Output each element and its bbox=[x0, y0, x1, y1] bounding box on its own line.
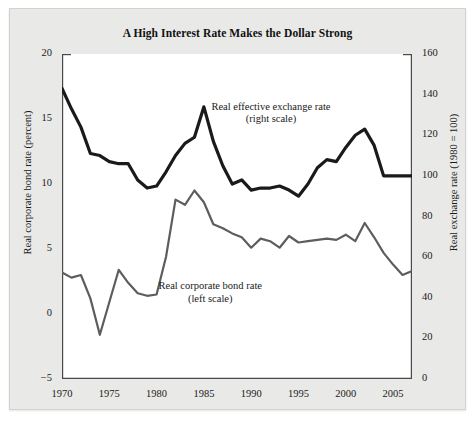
annotation-exchange-line1: Real effective exchange rate bbox=[211, 101, 330, 114]
x-tick-label: 1985 bbox=[179, 388, 229, 399]
y-tick-label-left: 0 bbox=[12, 307, 52, 318]
x-tick-label: 2005 bbox=[368, 388, 418, 399]
y-tick-label-left: 20 bbox=[12, 47, 52, 58]
y-tick-label-right: 60 bbox=[422, 250, 462, 261]
y-tick-label-right: 20 bbox=[422, 331, 462, 342]
y-tick-label-right: 120 bbox=[422, 128, 462, 139]
x-tick-label: 2000 bbox=[321, 388, 371, 399]
y-tick-label-right: 80 bbox=[422, 210, 462, 221]
x-tick-label: 1990 bbox=[226, 388, 276, 399]
y-tick-label-right: 140 bbox=[422, 88, 462, 99]
figure-root: A High Interest Rate Makes the Dollar St… bbox=[0, 0, 473, 430]
x-tick-label: 1970 bbox=[37, 388, 87, 399]
annotation-bond-line2: (left scale) bbox=[158, 293, 262, 306]
series-annotation-exchange: Real effective exchange rate (right scal… bbox=[211, 101, 330, 126]
annotation-bond-line1: Real corporate bond rate bbox=[158, 280, 262, 293]
x-tick-label: 1980 bbox=[132, 388, 182, 399]
y-tick-label-right: 0 bbox=[422, 372, 462, 383]
y-tick-label-left: 10 bbox=[12, 177, 52, 188]
series-line-bond-rate bbox=[62, 191, 412, 335]
figure-plate: A High Interest Rate Makes the Dollar St… bbox=[9, 8, 466, 410]
annotation-exchange-line2: (right scale) bbox=[211, 113, 330, 126]
y-tick-label-left: 5 bbox=[12, 242, 52, 253]
y-tick-label-left: −5 bbox=[12, 372, 52, 383]
x-tick-label: 1995 bbox=[273, 388, 323, 399]
x-tick-label: 1975 bbox=[84, 388, 134, 399]
y-tick-label-right: 160 bbox=[422, 47, 462, 58]
y-tick-label-left: 15 bbox=[12, 112, 52, 123]
y-tick-label-right: 100 bbox=[422, 169, 462, 180]
chart-title: A High Interest Rate Makes the Dollar St… bbox=[10, 27, 465, 39]
y-tick-label-right: 40 bbox=[422, 291, 462, 302]
series-annotation-bond: Real corporate bond rate (left scale) bbox=[158, 280, 262, 305]
